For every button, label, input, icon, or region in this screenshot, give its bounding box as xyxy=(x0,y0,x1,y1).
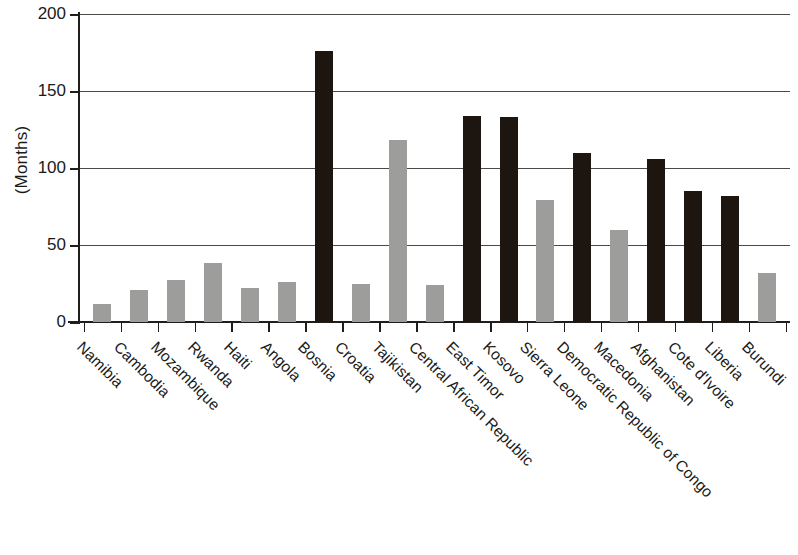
x-tick-mark xyxy=(84,323,86,332)
x-tick-mark xyxy=(231,323,233,332)
x-tick-mark xyxy=(453,323,455,332)
y-tick-mark xyxy=(70,245,79,247)
y-tick-mark xyxy=(70,168,79,170)
x-tick-mark xyxy=(416,323,418,332)
x-axis-label: Bosnia xyxy=(295,338,342,385)
x-axis-label: Angola xyxy=(258,338,305,385)
x-tick-mark xyxy=(121,323,123,332)
bar xyxy=(647,159,665,322)
gridline xyxy=(80,168,790,169)
x-tick-mark xyxy=(490,323,492,332)
x-tick-mark xyxy=(786,323,788,332)
y-tick-mark xyxy=(70,14,79,16)
x-tick-mark xyxy=(268,323,270,332)
y-tick-label: 150 xyxy=(22,82,66,99)
x-tick-mark xyxy=(601,323,603,332)
bar xyxy=(389,140,407,322)
bar xyxy=(758,273,776,322)
bar xyxy=(536,200,554,322)
bar xyxy=(500,117,518,322)
y-tick-mark xyxy=(70,322,79,324)
x-tick-mark xyxy=(749,323,751,332)
x-tick-mark xyxy=(305,323,307,332)
y-tick-mark xyxy=(70,91,79,93)
x-tick-mark xyxy=(564,323,566,332)
x-tick-mark xyxy=(379,323,381,332)
x-tick-mark xyxy=(675,323,677,332)
bar xyxy=(352,284,370,323)
y-tick-label: 200 xyxy=(22,5,66,22)
gridline xyxy=(80,14,790,15)
bar xyxy=(463,116,481,322)
bar xyxy=(278,282,296,322)
x-tick-mark xyxy=(527,323,529,332)
x-tick-mark xyxy=(342,323,344,332)
x-tick-mark xyxy=(712,323,714,332)
bar xyxy=(426,285,444,322)
bar xyxy=(684,191,702,322)
bar xyxy=(93,304,111,322)
plot-area xyxy=(80,14,790,322)
bar xyxy=(721,196,739,322)
bar xyxy=(241,288,259,322)
bar xyxy=(610,230,628,322)
x-axis-label: Burundi xyxy=(738,338,789,389)
bar xyxy=(573,153,591,322)
bar xyxy=(167,280,185,322)
y-tick-label: 50 xyxy=(22,236,66,253)
x-tick-mark xyxy=(195,323,197,332)
bar-chart: (Months) 050100150200 NamibiaCambodiaMoz… xyxy=(0,0,798,555)
bar xyxy=(130,290,148,322)
x-tick-mark xyxy=(158,323,160,332)
y-tick-label: 0 xyxy=(22,313,66,330)
gridline xyxy=(80,91,790,92)
bar xyxy=(315,51,333,322)
y-tick-label: 100 xyxy=(22,159,66,176)
bar xyxy=(204,263,222,322)
x-tick-mark xyxy=(638,323,640,332)
